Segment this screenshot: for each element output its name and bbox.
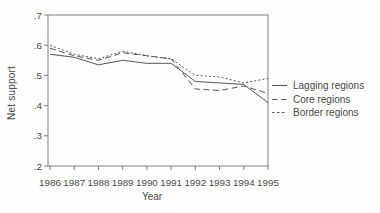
x-tick-label: 1987 <box>63 177 85 188</box>
legend-item: Border regions <box>272 106 364 119</box>
series-line-lagging-regions <box>50 54 268 102</box>
line-chart-figure: Net support .7.6.5.4.3.21986198719881989… <box>0 0 380 213</box>
y-tick-label: .5 <box>34 70 43 81</box>
x-tick-label: 1991 <box>160 177 182 188</box>
y-tick-label: .2 <box>34 161 42 172</box>
y-tick-label: .4 <box>34 100 43 111</box>
legend-line-sample <box>272 83 288 88</box>
x-tick-label: 1993 <box>209 177 231 188</box>
x-tick-label: 1986 <box>39 177 61 188</box>
x-tick-label: 1988 <box>88 177 110 188</box>
series-line-border-regions <box>50 45 268 83</box>
legend-line-sample <box>272 97 288 102</box>
legend-item: Core regions <box>272 92 364 105</box>
x-tick-label: 1994 <box>233 177 255 188</box>
x-tick-label: 1990 <box>136 177 158 188</box>
legend-label: Border regions <box>293 107 359 118</box>
x-tick-label: 1989 <box>112 177 134 188</box>
x-tick-label: 1995 <box>257 177 279 188</box>
legend-item: Lagging regions <box>272 79 364 92</box>
plot-frame <box>48 15 268 166</box>
legend-label: Lagging regions <box>293 80 364 91</box>
y-tick-label: .7 <box>34 10 42 21</box>
y-tick-label: .3 <box>34 130 43 141</box>
legend-line-sample <box>272 110 288 115</box>
x-tick-label: 1992 <box>184 177 206 188</box>
x-axis-title: Year <box>112 191 192 202</box>
legend-label: Core regions <box>293 94 350 105</box>
legend: Lagging regionsCore regionsBorder region… <box>272 79 364 119</box>
y-tick-label: .6 <box>34 40 43 51</box>
series-line-core-regions <box>50 48 268 93</box>
